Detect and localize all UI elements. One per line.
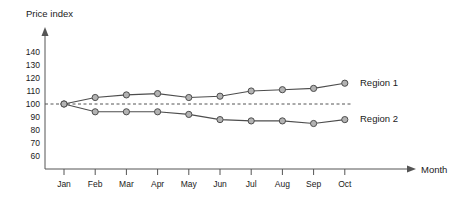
data-point-marker	[92, 109, 98, 115]
data-point-marker	[61, 101, 67, 107]
x-axis-tick-label: Sep	[306, 179, 321, 189]
data-point-marker	[155, 109, 161, 115]
x-axis-title: Month	[421, 164, 447, 175]
data-point-marker	[155, 91, 161, 97]
y-axis-tick-group: 14013012011010090807060	[26, 47, 40, 161]
x-axis-tick-label: Aug	[275, 179, 290, 189]
data-point-marker	[311, 120, 317, 126]
data-point-marker	[186, 111, 192, 117]
y-axis-tick-label: 70	[31, 138, 41, 148]
price-index-line-chart: Price index Month 1401301201101009080706…	[0, 0, 468, 198]
x-axis-tick-label: May	[181, 179, 198, 189]
data-point-marker	[279, 87, 285, 93]
x-axis-tick-label: Jun	[213, 179, 227, 189]
data-point-marker	[217, 93, 223, 99]
data-point-marker	[342, 117, 348, 123]
data-point-marker	[123, 92, 129, 98]
series-marker-group	[61, 80, 348, 127]
x-axis-arrow-icon	[407, 166, 416, 173]
data-point-marker	[186, 94, 192, 100]
series-label-region-1: Region 1	[360, 77, 398, 88]
y-axis-title: Price index	[26, 8, 73, 19]
y-axis-tick-label: 110	[26, 86, 40, 96]
data-point-marker	[123, 109, 129, 115]
data-point-marker	[92, 94, 98, 100]
x-axis-tick-label: Apr	[151, 179, 164, 189]
y-axis-tick-label: 140	[26, 47, 40, 57]
x-axis-tick-label: Jul	[246, 179, 257, 189]
series-label-region-2: Region 2	[360, 113, 398, 124]
x-axis-tick-label: Jan	[57, 179, 71, 189]
y-axis-tick-label: 60	[31, 151, 41, 161]
series-line-group	[64, 83, 345, 123]
data-point-marker	[248, 118, 254, 124]
y-axis-tick-label: 130	[26, 60, 40, 70]
chart-canvas: Price index Month 1401301201101009080706…	[0, 0, 468, 198]
series-line-2	[64, 104, 345, 124]
y-axis-tick-label: 80	[31, 125, 41, 135]
series-line-1	[64, 83, 345, 104]
y-axis-tick-label: 100	[26, 99, 40, 109]
x-axis-tick-label: Mar	[119, 179, 134, 189]
data-point-marker	[342, 80, 348, 86]
x-axis-tick-label: Feb	[88, 179, 103, 189]
x-axis-tick-label: Oct	[338, 179, 352, 189]
y-axis-tick-label: 90	[31, 112, 41, 122]
data-point-marker	[311, 85, 317, 91]
data-point-marker	[279, 118, 285, 124]
data-point-marker	[217, 117, 223, 123]
x-axis-tick-group: JanFebMarAprMayJunJulAugSepOct	[57, 169, 352, 189]
data-point-marker	[248, 88, 254, 94]
y-axis-tick-label: 120	[26, 73, 40, 83]
